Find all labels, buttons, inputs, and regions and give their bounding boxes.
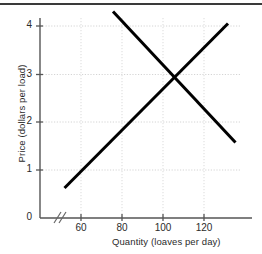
xtick-label-60: 60: [68, 222, 94, 233]
supply-demand-plot: [0, 0, 262, 254]
xtick-label-120: 120: [191, 222, 217, 233]
ytick-label-0: 0: [14, 211, 32, 222]
xtick-label-80: 80: [109, 222, 135, 233]
x-axis-title: Quantity (loaves per day): [112, 236, 221, 247]
demand-curve: [113, 12, 236, 143]
y-axis-title: Price (dollars per load): [16, 39, 27, 189]
chart-figure: 4 3 2 1 0 60 80 100 120 Price (dollars p…: [0, 0, 262, 254]
xtick-label-100: 100: [150, 222, 176, 233]
ytick-label-4: 4: [14, 19, 32, 30]
horizontal-gridlines: [40, 26, 240, 170]
vertical-gridlines: [81, 18, 204, 218]
